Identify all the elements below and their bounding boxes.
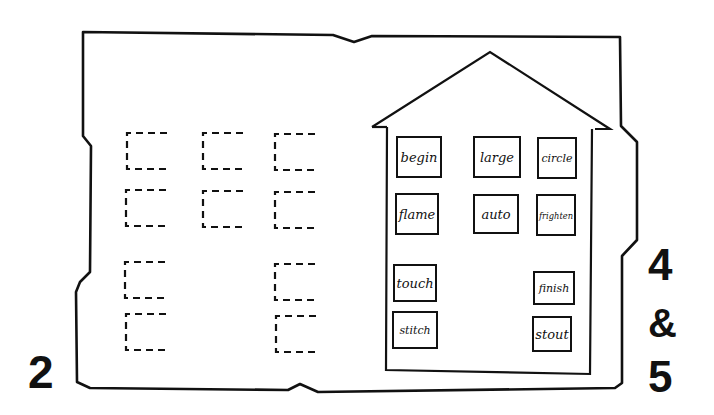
word-card[interactable]: stout (533, 317, 571, 351)
word-card-label: circle (541, 152, 573, 165)
card-placeholder[interactable] (127, 133, 167, 169)
card-placeholder[interactable] (275, 192, 315, 228)
word-card-label: touch (396, 276, 433, 291)
word-card[interactable]: large (474, 137, 520, 177)
house-roof (372, 52, 610, 129)
word-card[interactable]: stitch (393, 312, 437, 348)
card-placeholder[interactable] (275, 134, 315, 170)
word-card[interactable]: flame (396, 194, 438, 234)
placeholder-grid (125, 133, 316, 352)
word-card[interactable]: auto (474, 195, 518, 233)
word-card-label: frighten (538, 210, 573, 221)
card-placeholder[interactable] (125, 262, 165, 298)
card-placeholder[interactable] (126, 190, 166, 226)
word-card-label: finish (538, 282, 570, 295)
page-number-right-bottom: 5 (648, 352, 672, 401)
word-card[interactable]: begin (397, 137, 441, 177)
card-placeholder[interactable] (203, 133, 243, 169)
card-placeholder[interactable] (275, 264, 315, 300)
word-card[interactable]: frighten (537, 195, 575, 235)
word-card-grid: beginlargecircleflameautofrightentouchfi… (393, 137, 576, 351)
word-card-label: begin (401, 150, 438, 165)
word-card-label: auto (481, 207, 510, 222)
word-card-label: large (480, 150, 514, 165)
word-card[interactable]: finish (534, 272, 574, 304)
card-placeholder[interactable] (276, 316, 316, 352)
page-number-ampersand: & (648, 301, 677, 345)
page-number-right-top: 4 (648, 240, 673, 289)
card-placeholder[interactable] (126, 314, 166, 350)
word-card-label: flame (398, 207, 436, 222)
page-number-left: 2 (28, 346, 54, 398)
word-card-label: stout (535, 327, 569, 342)
word-card[interactable]: circle (538, 138, 576, 178)
folder-diagram: beginlargecircleflameautofrightentouchfi… (0, 0, 714, 415)
word-card-label: stitch (399, 324, 430, 337)
word-card[interactable]: touch (394, 265, 436, 301)
card-placeholder[interactable] (203, 191, 243, 227)
